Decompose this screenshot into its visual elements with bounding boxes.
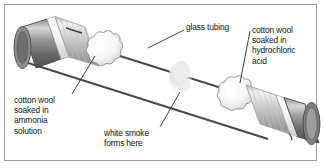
smoke-cloud-icon	[169, 61, 192, 93]
label-ammonia-solution: cotton wool soaked in ammonia solution	[14, 95, 55, 136]
left-stopper	[14, 17, 99, 69]
diagram-figure: glass tubing cotton wool soaked in hydro…	[0, 0, 324, 168]
leader-glass-tubing	[148, 30, 184, 48]
right-bung-inner	[306, 108, 317, 140]
left-bung-inner	[17, 32, 28, 64]
label-glass-tubing: glass tubing	[186, 22, 229, 32]
label-hydrochloric-acid: cotton wool soaked in hydrochloric acid	[252, 25, 295, 66]
leader-hydrochloric	[240, 31, 250, 83]
label-white-smoke: white smoke forms here	[104, 128, 149, 148]
